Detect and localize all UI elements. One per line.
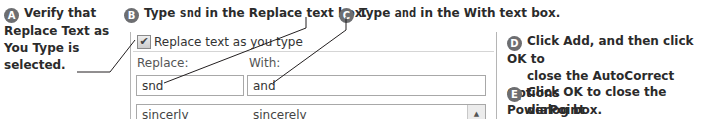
callout-lines [0,0,712,119]
